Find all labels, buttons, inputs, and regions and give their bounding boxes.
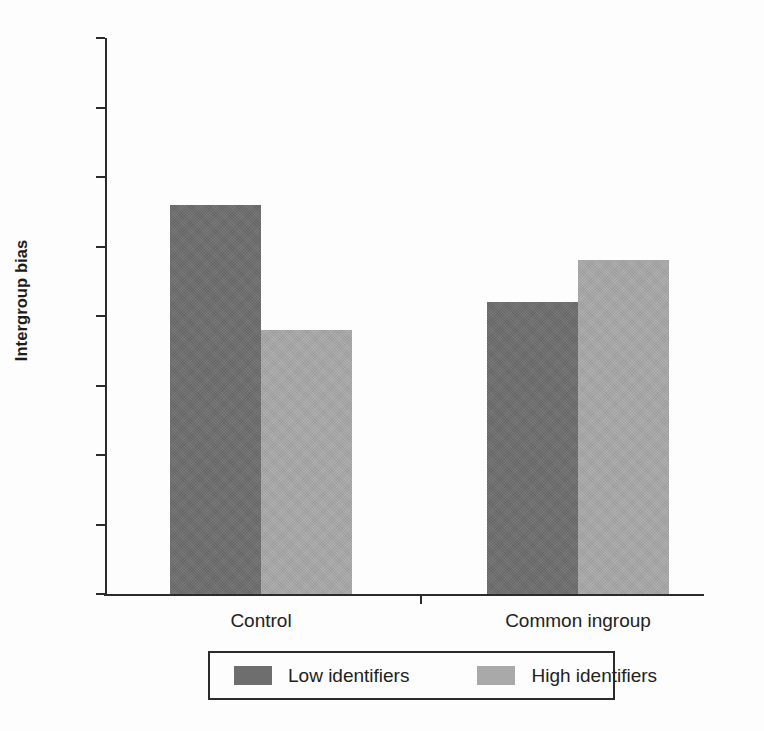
y-tick-mark	[96, 176, 105, 178]
bar-control-low-identifiers	[170, 205, 261, 594]
legend-item-low-identifiers[interactable]: Low identifiers	[234, 653, 409, 698]
legend: Low identifiers High identifiers	[208, 651, 615, 700]
y-tick-mark	[96, 454, 105, 456]
x-category-label: Common ingroup	[505, 610, 651, 632]
y-tick-mark	[96, 107, 105, 109]
legend-item-high-identifiers[interactable]: High identifiers	[477, 653, 657, 698]
x-axis-mid-tick	[420, 595, 422, 604]
bar-fill	[487, 302, 578, 594]
y-tick-mark	[96, 246, 105, 248]
bar-fill	[261, 330, 352, 594]
bar-common-ingroup-low-identifiers	[487, 302, 578, 594]
x-category-label: Control	[230, 610, 291, 632]
y-tick-mark	[96, 315, 105, 317]
plot-area	[105, 38, 675, 594]
legend-swatch-icon-low	[234, 666, 272, 685]
y-tick-mark	[96, 593, 105, 595]
y-axis-title-text: Intergroup bias	[13, 239, 32, 361]
legend-label-low: Low identifiers	[288, 665, 409, 687]
y-tick-mark	[96, 524, 105, 526]
legend-label-high: High identifiers	[531, 665, 657, 687]
x-axis-category-labels: ControlCommon ingroup	[105, 610, 705, 640]
bar-chart-figure: Intergroup bias 807570656055504540 Contr…	[0, 0, 764, 731]
bar-control-high-identifiers	[261, 330, 352, 594]
bar-fill	[578, 260, 669, 594]
legend-swatch-icon-high	[477, 666, 515, 685]
y-tick-mark	[96, 385, 105, 387]
bar-common-ingroup-high-identifiers	[578, 260, 669, 594]
y-tick-mark	[96, 37, 105, 39]
bar-fill	[170, 205, 261, 594]
x-axis-line	[104, 594, 704, 596]
y-axis-line	[105, 38, 107, 595]
y-axis-title: Intergroup bias	[0, 0, 44, 600]
